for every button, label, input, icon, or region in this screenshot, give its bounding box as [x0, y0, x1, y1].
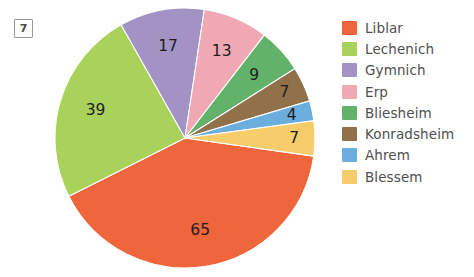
pie-slice-value-label: 7: [279, 83, 289, 101]
legend-color-swatch: [342, 148, 357, 162]
pie-slice-value-label: 13: [212, 42, 232, 60]
legend-item-label: Liblar: [365, 20, 403, 36]
pie-slice-value-label: 17: [158, 37, 178, 55]
pie-slice-value-label: 65: [190, 221, 210, 239]
legend-item-label: Gymnich: [365, 62, 426, 78]
legend-item[interactable]: Gymnich: [342, 60, 472, 81]
legend-item[interactable]: Konradsheim: [342, 123, 472, 144]
legend-color-swatch: [342, 63, 357, 77]
pie-slice-value-label: 7: [289, 129, 299, 147]
legend-color-swatch: [342, 106, 357, 120]
legend-item[interactable]: Bliesheim: [342, 102, 472, 123]
legend-item[interactable]: Blessem: [342, 166, 472, 187]
pie-slice-value-label: 4: [287, 106, 297, 124]
legend-item-label: Blessem: [365, 169, 423, 185]
legend-item-label: Konradsheim: [365, 126, 454, 142]
pie-chart-svg: 653917139747: [54, 7, 318, 270]
pie-slice-value-label: 39: [86, 101, 106, 119]
legend-item-label: Erp: [365, 84, 388, 100]
chart-page: 7 653917139747 LiblarLechenichGymnichErp…: [0, 0, 474, 277]
legend-item[interactable]: Erp: [342, 81, 472, 102]
pie-slice-group: [55, 8, 315, 268]
legend-item[interactable]: Liblar: [342, 17, 472, 38]
legend-color-swatch: [342, 42, 357, 56]
pie-slice-value-label: 9: [249, 66, 259, 84]
legend-color-swatch: [342, 21, 357, 35]
legend-color-swatch: [342, 127, 357, 141]
legend-item-label: Bliesheim: [365, 105, 432, 121]
figure-number-box: 7: [14, 19, 33, 38]
chart-legend: LiblarLechenichGymnichErpBliesheimKonrad…: [342, 17, 472, 187]
legend-item-label: Ahrem: [365, 147, 410, 163]
legend-item-label: Lechenich: [365, 41, 434, 57]
legend-color-swatch: [342, 85, 357, 99]
legend-item[interactable]: Ahrem: [342, 145, 472, 166]
legend-color-swatch: [342, 170, 357, 184]
pie-chart: 653917139747: [54, 7, 318, 270]
legend-item[interactable]: Lechenich: [342, 38, 472, 59]
